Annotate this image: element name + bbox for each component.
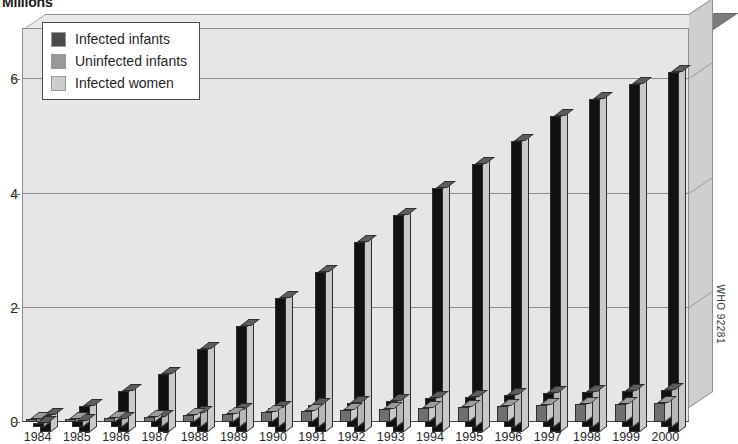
bar [550,116,561,432]
bar-front-face [261,412,272,422]
bar-group [257,28,296,422]
x-axis-tick-label: 1984 [18,430,57,444]
legend-item-infected-infants: Infected infants [51,28,187,50]
page-title: Millions [2,0,53,10]
bar [379,409,390,422]
bar-side-face [129,385,136,432]
bar-front-face [536,405,547,422]
x-axis-tick-label: 1997 [528,430,567,444]
legend-item-infected-women: Infected women [51,72,187,94]
chart-legend: Infected infants Uninfected infants Infe… [42,22,200,100]
bar-side-face [679,67,686,432]
bar-group [336,28,375,422]
bar-front-face [340,410,351,422]
bar-front-face [497,406,508,422]
bar [654,403,665,422]
bar-front-face [301,411,312,422]
bar-group [218,28,257,422]
x-axis-tick-label: 1994 [410,430,449,444]
bar [497,406,508,422]
bar-side-face [326,267,333,432]
bar-side-face [404,210,411,432]
bar-front-face [33,423,44,427]
bar-side-face [554,388,561,427]
bar-front-face [379,409,390,422]
x-axis-tick-label: 1988 [175,430,214,444]
bar-front-face [668,72,679,432]
bar-group [297,28,336,422]
bar [589,99,600,432]
bar [301,411,312,422]
y-axis-tick-mark [11,194,20,195]
bar-group [493,28,532,422]
bar-front-face [615,404,626,422]
bar [65,419,76,422]
bar-group [571,28,610,422]
bar-group [532,28,571,422]
bar [615,404,626,422]
x-axis-tick-label: 1989 [214,430,253,444]
bar-front-face [458,407,469,422]
x-axis-tick-label: 1996 [489,430,528,444]
bar-side-face [443,183,450,432]
bar [340,410,351,422]
bar [144,417,155,422]
bar-top-face [671,65,691,72]
bar-side-face [640,78,647,432]
x-axis-tick-label: 1993 [371,430,410,444]
bar [458,407,469,422]
bar [629,84,640,432]
bar-side-face [672,384,679,427]
x-axis-tick-label: 1986 [96,430,135,444]
bar-side-face [247,320,254,432]
source-credit: WHO 92281 [715,284,726,344]
bar-front-face [222,414,233,422]
bar [261,412,272,422]
plot-right-wall [689,0,713,408]
bar-front-face [575,404,586,422]
bar [72,421,83,427]
x-axis-tick-label: 1991 [293,430,332,444]
bar [183,415,194,422]
bar-side-face [561,110,568,432]
bar [536,405,547,422]
y-axis-tick-mark [11,308,20,309]
bar-side-face [515,390,522,427]
legend-label-uninfected-infants: Uninfected infants [75,53,187,69]
bar [668,72,679,432]
bar-side-face [593,387,600,427]
y-axis-tick-mark [11,422,20,423]
bar-group [454,28,493,422]
bar-front-face [104,418,115,422]
x-axis-tick-label: 1985 [57,430,96,444]
x-axis-tick-label: 1998 [567,430,606,444]
bar-front-face [26,419,37,422]
bar-front-face [72,421,83,427]
bar [104,418,115,422]
legend-swatch-infected-women [51,76,66,91]
bar [418,408,429,422]
legend-label-infected-infants: Infected infants [75,31,170,47]
bar-side-face [286,292,293,432]
bar-group [611,28,650,422]
legend-swatch-uninfected-infants [51,54,66,69]
bar-front-face [629,84,640,432]
bar-front-face [589,99,600,432]
bar-group [414,28,453,422]
bar-front-face [65,419,76,422]
bar-side-face [208,344,215,432]
x-axis-tick-label: 2000 [646,430,685,444]
bar [575,404,586,422]
y-axis-tick-mark [11,79,20,80]
x-axis-tick-label: 1992 [332,430,371,444]
x-axis-tick-label: 1987 [136,430,175,444]
bar-side-face [365,236,372,432]
bar-front-face [550,116,561,432]
legend-swatch-infected-infants [51,32,66,47]
bar [26,419,37,422]
bar-group [650,28,689,422]
bar-side-face [169,369,176,432]
bar-front-face [418,408,429,422]
bar-side-face [633,386,640,427]
